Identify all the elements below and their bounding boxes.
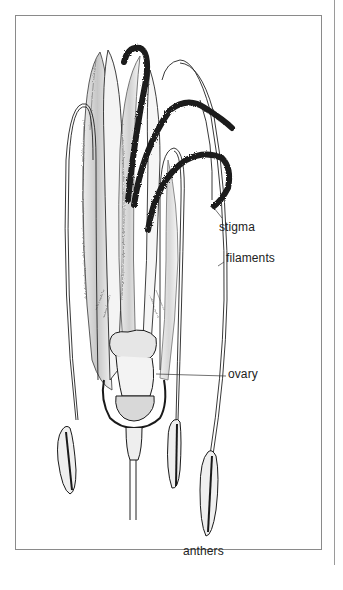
label-anthers: anthers	[183, 544, 224, 558]
ovary	[103, 330, 165, 460]
label-filaments: filaments	[226, 251, 275, 265]
stalk	[130, 460, 136, 520]
grass-flower-illustration	[0, 0, 343, 590]
label-ovary: ovary	[228, 367, 258, 381]
label-stigma: stigma	[219, 220, 255, 234]
stigmas	[124, 48, 232, 230]
